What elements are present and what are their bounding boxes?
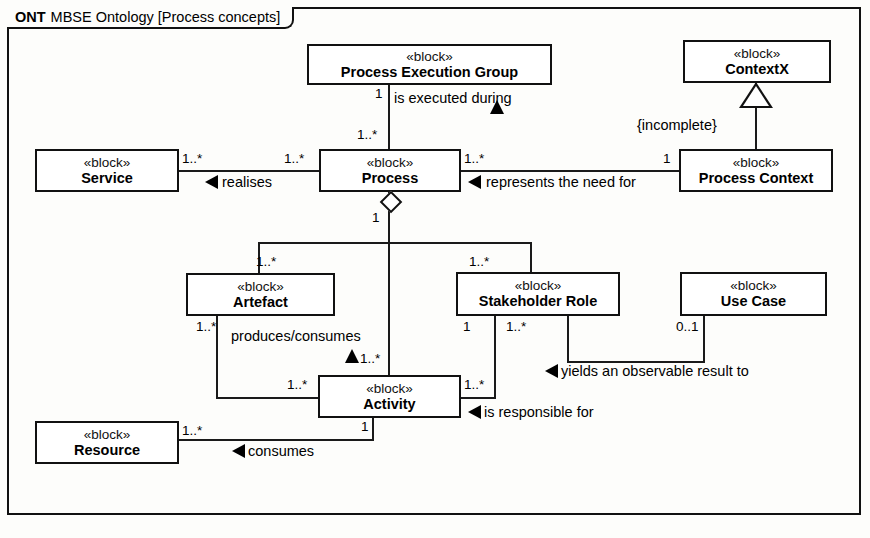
- connector-produces-consumes-left: [216, 315, 218, 399]
- connector-aggregation-trunk: [388, 192, 390, 383]
- arrowhead-realises-icon: [205, 175, 218, 189]
- association-label-realises: realises: [222, 174, 272, 190]
- block-stereotype: «block»: [237, 279, 284, 294]
- multiplicity-usecase-bottom: 0..1: [676, 320, 699, 334]
- multiplicity-stakeholder-bottom-right: 1..*: [506, 320, 526, 334]
- multiplicity-process-top: 1..*: [357, 128, 377, 142]
- arrowhead-consumes-icon: [232, 444, 245, 458]
- association-label-produces-consumes: produces/consumes: [231, 328, 361, 344]
- block-name: ContextX: [725, 61, 789, 78]
- diagram-kind-label: ONT: [15, 9, 46, 25]
- association-label-is-responsible-for: is responsible for: [484, 404, 594, 420]
- block-name: Process Context: [699, 170, 813, 187]
- block-stereotype: «block»: [734, 46, 781, 61]
- connector-is-responsible-for-vertical: [494, 315, 496, 399]
- block-process-execution-group[interactable]: «block» Process Execution Group: [307, 44, 552, 85]
- block-name: Artefact: [233, 294, 288, 311]
- connector-consumes-vertical: [372, 417, 374, 441]
- block-name: Process: [362, 170, 418, 187]
- association-label-consumes: consumes: [248, 443, 314, 459]
- multiplicity-peg-bottom: 1: [375, 87, 383, 101]
- multiplicity-service-right: 1..*: [182, 152, 202, 166]
- connector-aggregation-bus: [258, 242, 532, 244]
- connector-yields-result-left: [567, 315, 569, 363]
- multiplicity-activity-produces: 1..*: [360, 352, 380, 366]
- block-stereotype: «block»: [406, 49, 453, 64]
- block-stereotype: «block»: [515, 278, 562, 293]
- block-contextx[interactable]: «block» ContextX: [683, 40, 831, 83]
- block-service[interactable]: «block» Service: [35, 149, 179, 192]
- multiplicity-activity-left: 1..*: [287, 378, 307, 392]
- generalization-constraint-label: {incomplete}: [637, 117, 717, 133]
- block-stereotype: «block»: [84, 427, 131, 442]
- diagram-title-label: MBSE Ontology [Process concepts]: [51, 9, 281, 25]
- block-stakeholder-role[interactable]: «block» Stakeholder Role: [456, 272, 620, 316]
- multiplicity-resource-right: 1..*: [182, 424, 202, 438]
- block-stereotype: «block»: [84, 155, 131, 170]
- generalization-triangle-icon: [739, 82, 773, 108]
- connector-is-responsible-for-horizontal: [458, 397, 496, 399]
- block-name: Stakeholder Role: [479, 293, 597, 310]
- connector-aggregation-branch-stakeholder: [530, 242, 532, 273]
- multiplicity-stakeholder-bottom-left: 1: [463, 320, 471, 334]
- block-stereotype: «block»: [730, 278, 777, 293]
- multiplicity-stakeholder-top: 1..*: [469, 255, 489, 269]
- diagram-frame-header: ONT MBSE Ontology [Process concepts]: [7, 7, 294, 29]
- connector-realises: [178, 170, 320, 172]
- block-process-context[interactable]: «block» Process Context: [679, 149, 833, 192]
- multiplicity-process-right: 1..*: [464, 152, 484, 166]
- multiplicity-artefact-top: 1..*: [256, 255, 276, 269]
- arrowhead-represents-need-icon: [468, 175, 481, 189]
- block-process[interactable]: «block» Process: [319, 149, 461, 192]
- multiplicity-process-context-left: 1: [663, 152, 671, 166]
- arrowhead-is-responsible-for-icon: [468, 405, 481, 419]
- connector-produces-consumes-bottom: [216, 397, 320, 399]
- connector-consumes-horizontal: [178, 439, 374, 441]
- block-stereotype: «block»: [366, 381, 413, 396]
- association-label-is-executed-during: is executed during: [394, 90, 512, 106]
- block-stereotype: «block»: [733, 155, 780, 170]
- connector-is-executed-during: [388, 84, 390, 152]
- block-resource[interactable]: «block» Resource: [35, 421, 179, 464]
- multiplicity-process-left: 1..*: [284, 152, 304, 166]
- connector-represents-the-need-for: [460, 170, 680, 172]
- multiplicity-activity-right: 1..*: [464, 378, 484, 392]
- multiplicity-activity-bottom: 1: [361, 420, 369, 434]
- multiplicity-artefact-bottom-left: 1..*: [196, 320, 216, 334]
- arrowhead-yields-result-icon: [545, 364, 558, 378]
- connector-yields-result-right: [703, 315, 705, 363]
- association-label-represents-need-for: represents the need for: [486, 174, 636, 190]
- block-name: Service: [81, 170, 133, 187]
- association-label-yields-result: yields an observable result to: [561, 363, 749, 379]
- block-name: Resource: [74, 442, 140, 459]
- block-name: Process Execution Group: [341, 64, 518, 81]
- multiplicity-process-aggregation: 1: [372, 211, 380, 225]
- block-artefact[interactable]: «block» Artefact: [186, 273, 335, 316]
- sysml-block-definition-diagram: ONT MBSE Ontology [Process concepts] «bl…: [0, 0, 870, 538]
- block-stereotype: «block»: [367, 155, 414, 170]
- block-name: Use Case: [721, 293, 786, 310]
- block-name: Activity: [363, 396, 415, 413]
- arrowhead-produces-consumes-icon: [345, 349, 359, 363]
- block-use-case[interactable]: «block» Use Case: [680, 272, 827, 316]
- block-activity[interactable]: «block» Activity: [318, 375, 461, 418]
